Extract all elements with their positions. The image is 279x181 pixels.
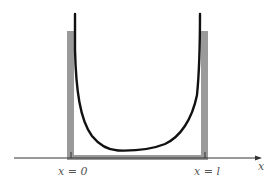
label-x-equals-l: x = l bbox=[194, 165, 220, 178]
left-wall bbox=[67, 31, 74, 160]
wavefunction-curve bbox=[75, 14, 200, 151]
label-x-axis: x bbox=[258, 160, 265, 173]
label-x-equals-0: x = 0 bbox=[58, 165, 87, 178]
diagram-canvas: x = 0 x = l x bbox=[0, 0, 279, 181]
right-wall bbox=[201, 31, 208, 160]
